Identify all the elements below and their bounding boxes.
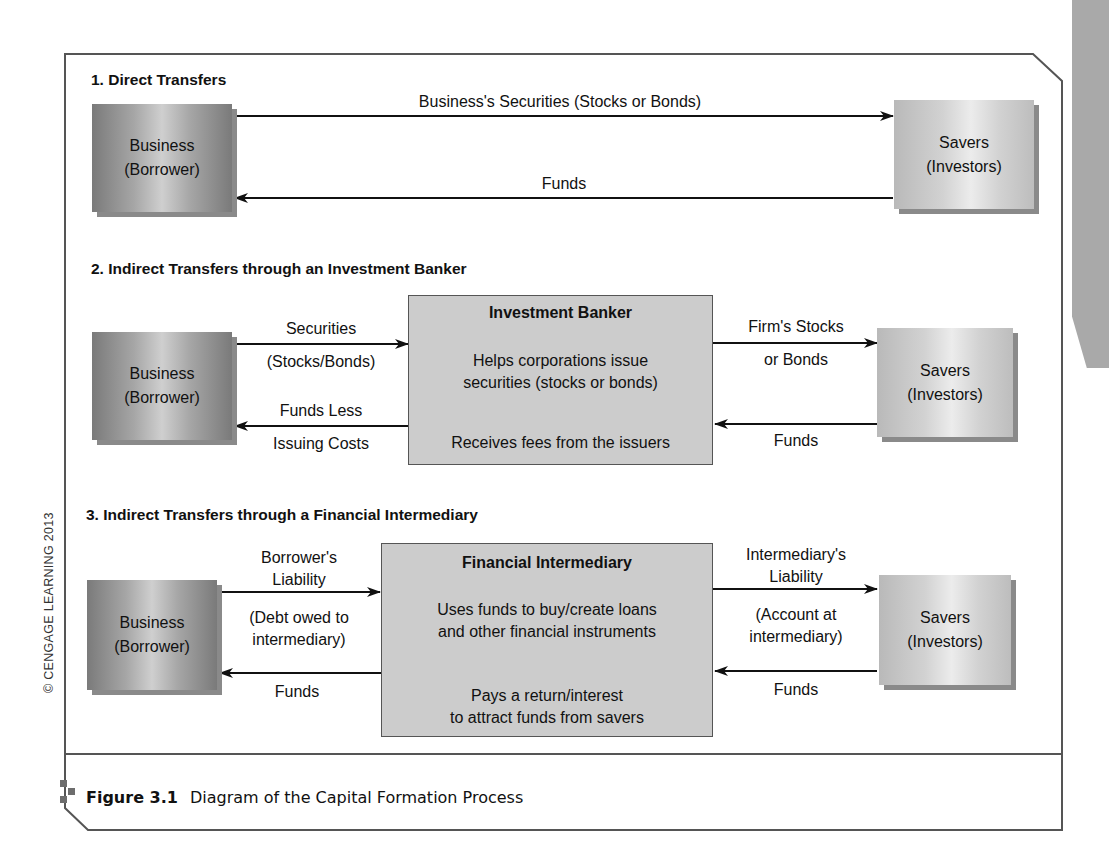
business-borrower-node: Business (Borrower) (92, 104, 232, 212)
section-title-financial-intermediary: 3. Indirect Transfers through a Financia… (86, 506, 478, 524)
label-funds: Funds (275, 681, 319, 703)
label-business-securities: Business's Securities (Stocks or Bonds) (419, 91, 701, 113)
node-label: Savers (920, 359, 970, 383)
label-or-bonds: or Bonds (764, 349, 828, 371)
copyright-notice: © CENGAGE LEARNING 2013 (42, 512, 56, 693)
label-liability: Liability (769, 566, 822, 588)
node-label: Savers (939, 131, 989, 155)
section-title-direct: 1. Direct Transfers (91, 71, 226, 89)
financial-intermediary-title: Financial Intermediary (382, 554, 712, 572)
intermediary-description-line1: Uses funds to buy/create loans (382, 599, 712, 621)
node-sublabel: (Borrower) (114, 635, 190, 659)
label-debt-owed: (Debt owed to (249, 607, 349, 629)
label-borrowers: Borrower's (261, 547, 337, 569)
investment-banker-description-line2: securities (stocks or bonds) (409, 372, 712, 394)
business-borrower-node: Business (Borrower) (87, 580, 217, 690)
section-title-investment-banker: 2. Indirect Transfers through an Investm… (91, 260, 467, 278)
investment-banker-description-line1: Helps corporations issue (409, 350, 712, 372)
label-firms-stocks: Firm's Stocks (748, 316, 844, 338)
node-sublabel: (Borrower) (124, 158, 200, 182)
label-funds: Funds (774, 679, 818, 701)
node-sublabel: (Borrower) (124, 386, 200, 410)
label-intermediary-account: intermediary) (749, 626, 842, 648)
savers-investors-node: Savers (Investors) (877, 328, 1013, 437)
intermediary-description-line2: and other financial instruments (382, 621, 712, 643)
node-label: Savers (920, 606, 970, 630)
investment-banker-title: Investment Banker (409, 304, 712, 322)
node-sublabel: (Investors) (907, 630, 983, 654)
label-to-intermediary: intermediary) (252, 629, 345, 651)
label-funds: Funds (774, 430, 818, 452)
savers-investors-node: Savers (Investors) (879, 575, 1011, 685)
figure-caption: Figure 3.1Diagram of the Capital Formati… (86, 788, 523, 807)
figure-number: Figure 3.1 (86, 788, 178, 807)
investment-banker-box: Investment Banker Helps corporations iss… (408, 295, 713, 465)
node-label: Business (120, 611, 185, 635)
business-borrower-node: Business (Borrower) (92, 332, 232, 440)
savers-investors-node: Savers (Investors) (894, 100, 1034, 209)
label-securities: Securities (286, 318, 356, 340)
label-issuing-costs: Issuing Costs (273, 433, 369, 455)
label-intermediarys: Intermediary's (746, 544, 846, 566)
figure-marker-icon (60, 780, 76, 808)
intermediary-return-line2: to attract funds from savers (382, 707, 712, 729)
node-label: Business (130, 134, 195, 158)
node-sublabel: (Investors) (926, 155, 1002, 179)
label-liability: Liability (272, 569, 325, 591)
label-account-at: (Account at (756, 604, 837, 626)
label-funds: Funds (542, 173, 586, 195)
financial-intermediary-box: Financial Intermediary Uses funds to buy… (381, 543, 713, 737)
investment-banker-fees-text: Receives fees from the issuers (409, 432, 712, 454)
label-stocks-bonds: (Stocks/Bonds) (267, 351, 375, 373)
node-label: Business (130, 362, 195, 386)
label-funds-less: Funds Less (280, 400, 363, 422)
figure-title: Diagram of the Capital Formation Process (190, 788, 523, 807)
intermediary-return-line1: Pays a return/interest (382, 685, 712, 707)
node-sublabel: (Investors) (907, 383, 983, 407)
